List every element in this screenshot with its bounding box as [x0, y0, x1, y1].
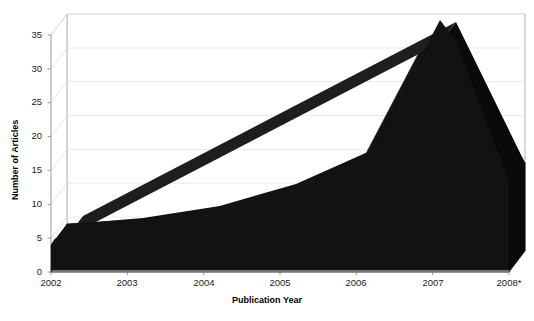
chart-figure: 0 5 10 15 20 25 30 35 2002 2003 2004 200…	[0, 0, 534, 321]
x-tick-label: 2006	[326, 277, 386, 288]
x-tick-label: 2008*	[479, 277, 534, 288]
y-axis-ticks	[48, 35, 52, 272]
y-tick-label: 35	[16, 29, 42, 40]
x-tick-label: 2003	[97, 277, 157, 288]
x-tick-label: 2004	[174, 277, 234, 288]
x-tick-label: 2007	[403, 277, 463, 288]
x-axis-ticks	[51, 272, 509, 275]
figure-caption-strip	[0, 313, 534, 321]
y-tick-label: 30	[16, 63, 42, 74]
y-tick-label: 5	[16, 232, 42, 243]
x-axis-title: Publication Year	[0, 295, 534, 305]
chart-canvas	[0, 0, 534, 321]
y-tick-label: 0	[16, 266, 42, 277]
y-tick-label: 25	[16, 96, 42, 107]
x-tick-label: 2002	[21, 277, 81, 288]
y-axis-title: Number of Articles	[10, 120, 20, 200]
x-tick-label: 2005	[250, 277, 310, 288]
